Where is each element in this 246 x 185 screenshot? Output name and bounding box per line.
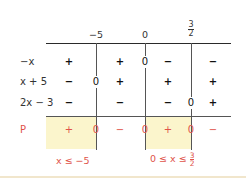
sign-cell: + [113,76,127,88]
header-point-minus5: −5 [88,29,104,40]
header-point-0: 0 [137,29,153,40]
sign-cell: − [62,97,76,109]
frac-denominator: 2 [190,160,195,167]
sign-cell: − [62,76,76,88]
solution-label-1: x ≤ −5 [56,155,90,167]
result-sign-cell: − [206,124,220,136]
zero-marker: 0 [91,76,101,88]
header-divider [46,43,231,44]
frac-denominator: 2 [186,30,196,38]
sign-cell: − [161,97,175,109]
sign-cell: − [113,97,127,109]
solution-label-2-text: 0 ≤ x ≤ [150,153,190,164]
result-sign-cell: + [161,124,175,136]
solution-frac: 32 [190,152,195,167]
row-label-p: P [20,124,26,136]
header-point-3-2: 3 2 [186,21,196,38]
sign-cell: − [206,56,220,68]
frac-numerator: 3 [190,152,195,159]
row-label-x-plus-5: x + 5 [20,76,47,88]
row-label-2x-minus-3: 2x − 3 [20,97,53,109]
result-divider [46,116,231,117]
zero-marker: 0 [140,56,150,68]
result-sign-cell: + [62,124,76,136]
bottom-border [0,176,246,178]
sign-cell: + [206,97,220,109]
solution-label-2: 0 ≤ x ≤ 32 [150,152,194,167]
sign-cell: + [161,76,175,88]
result-sign-cell: − [113,124,127,136]
result-zero-marker: 0 [140,124,150,136]
row-label-neg-x: −x [20,56,34,68]
sign-cell: + [206,76,220,88]
result-zero-marker: 0 [91,124,101,136]
sign-cell: + [62,56,76,68]
sign-cell: + [113,56,127,68]
zero-marker: 0 [186,97,196,109]
sign-cell: − [161,56,175,68]
frac-numerator: 3 [186,21,196,29]
result-zero-marker: 0 [186,124,196,136]
